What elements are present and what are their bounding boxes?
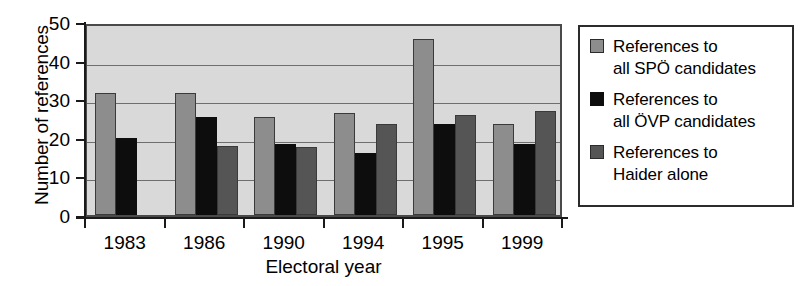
bar xyxy=(95,93,116,215)
x-axis-tick xyxy=(323,219,325,228)
plot-area xyxy=(85,24,562,217)
bar xyxy=(376,124,397,215)
x-axis-title: Electoral year xyxy=(85,256,562,278)
y-axis-tick-label: 50 xyxy=(26,14,70,33)
bar xyxy=(355,153,376,215)
legend-item: References to all ÖVP candidates xyxy=(590,89,784,133)
y-axis-title: Number of references xyxy=(31,10,53,220)
legend-swatch-icon xyxy=(590,145,604,159)
y-axis-tick xyxy=(76,177,85,179)
bar xyxy=(493,124,514,215)
y-axis-tick-label: 20 xyxy=(26,130,70,149)
x-axis-tick-label: 1983 xyxy=(85,232,165,253)
legend-swatch-icon xyxy=(590,92,604,106)
bar xyxy=(254,117,275,215)
x-axis-tick-label: 1986 xyxy=(164,232,244,253)
bar xyxy=(514,144,535,215)
x-axis-tick xyxy=(482,219,484,228)
legend-label: References to all ÖVP candidates xyxy=(613,89,755,133)
x-axis-tick-label: 1999 xyxy=(482,232,562,253)
x-axis-tick-label: 1995 xyxy=(403,232,483,253)
bar xyxy=(413,39,434,215)
bar xyxy=(296,147,317,215)
y-axis-tick xyxy=(76,62,85,64)
legend-label: References to Haider alone xyxy=(613,142,718,186)
x-axis-tick xyxy=(164,219,166,228)
bar-chart-figure: Number of references 01020304050 1983198… xyxy=(0,0,812,286)
legend-swatch-icon xyxy=(590,39,604,53)
bar xyxy=(217,146,238,215)
legend-label: References to all SPÖ candidates xyxy=(613,36,756,80)
x-axis-tick-label: 1990 xyxy=(244,232,324,253)
bar xyxy=(434,124,455,215)
bar xyxy=(535,111,556,215)
y-axis-tick-label: 0 xyxy=(26,207,70,226)
y-axis-tick xyxy=(76,216,85,218)
x-axis-tick xyxy=(561,219,563,228)
y-axis-tick xyxy=(76,100,85,102)
y-axis-tick-label: 10 xyxy=(26,168,70,187)
legend-item: References to all SPÖ candidates xyxy=(590,36,784,80)
y-axis-line xyxy=(84,22,86,219)
y-axis-tick xyxy=(76,139,85,141)
legend: References to all SPÖ candidatesReferenc… xyxy=(578,25,794,207)
y-axis-tick-label: 40 xyxy=(26,53,70,72)
bar xyxy=(455,115,476,215)
x-axis-tick xyxy=(243,219,245,228)
bar xyxy=(196,117,217,215)
bar xyxy=(275,144,296,215)
bar xyxy=(334,113,355,215)
x-axis-tick-label: 1994 xyxy=(323,232,403,253)
bar xyxy=(175,93,196,215)
bars-layer xyxy=(87,26,560,215)
x-axis-tick xyxy=(402,219,404,228)
y-axis-tick xyxy=(76,23,85,25)
bar xyxy=(116,138,137,215)
y-axis-tick-label: 30 xyxy=(26,91,70,110)
x-axis-tick xyxy=(84,219,86,228)
legend-item: References to Haider alone xyxy=(590,142,784,186)
